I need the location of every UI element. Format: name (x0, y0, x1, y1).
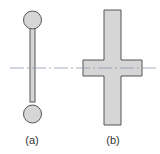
cross-shape (83, 10, 142, 125)
dumbbell-top-ball (24, 11, 42, 29)
panel-a-label: (a) (25, 134, 38, 146)
diagram-canvas (0, 0, 160, 154)
dumbbell-rod (30, 27, 35, 102)
dumbbell-shape (24, 11, 42, 123)
dumbbell-bottom-ball (24, 105, 42, 123)
cross-outline (83, 10, 142, 125)
panel-b-label: (b) (106, 134, 119, 146)
